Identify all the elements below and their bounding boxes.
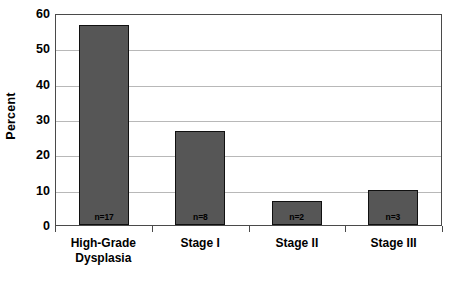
x-axis-category-label: Stage I [152,236,249,282]
bar[interactable]: n=3 [368,190,418,225]
x-axis-category-label: Stage II [249,236,346,282]
bar-count-label: n=17 [95,213,114,225]
bar-slot: n=2 [249,15,345,225]
bar-slot: n=3 [345,15,441,225]
x-axis-category-label: Stage III [345,236,442,282]
y-axis-tick-label: 0 [43,219,50,233]
category-label-line-1: Stage III [371,236,417,250]
bar[interactable]: n=17 [79,25,129,225]
y-axis-title-text: Percent [4,92,18,139]
bar-chart-figure: Percent 6050403020100 n=17n=8n=2n=3 High… [0,0,450,286]
category-label-line-1: High-Grade [71,236,136,250]
y-axis-title: Percent [0,0,22,232]
x-axis-tick-mark [152,226,153,232]
bar[interactable]: n=2 [272,201,322,225]
y-axis-tick-label: 20 [36,148,50,162]
x-axis-tick-mark [442,226,443,232]
x-axis-category-label: High-GradeDysplasia [55,236,152,282]
category-label-line-1: Stage II [276,236,319,250]
bar-slot: n=8 [152,15,248,225]
plot-area: n=17n=8n=2n=3 [55,14,442,226]
y-axis-tick-labels: 6050403020100 [22,14,55,226]
bars-container: n=17n=8n=2n=3 [56,15,441,225]
x-axis-tick-mark [55,226,56,232]
bar-slot: n=17 [56,15,152,225]
category-label-line-1: Stage I [180,236,219,250]
y-axis-tick-label: 50 [36,42,50,56]
bar[interactable]: n=8 [175,131,225,225]
x-axis-category-labels: High-GradeDysplasiaStage IStage IIStage … [55,236,442,282]
x-axis-tick-mark [249,226,250,232]
bar-count-label: n=3 [386,213,401,225]
bar-count-label: n=2 [289,213,304,225]
category-label-line-2: Dysplasia [57,251,150,266]
y-axis-tick-label: 30 [36,113,50,127]
y-axis-tick-label: 40 [36,78,50,92]
y-axis-tick-label: 60 [36,7,50,21]
x-axis-tick-mark [345,226,346,232]
bar-count-label: n=8 [193,213,208,225]
x-axis-tick-marks [55,226,442,232]
y-axis-tick-label: 10 [36,184,50,198]
